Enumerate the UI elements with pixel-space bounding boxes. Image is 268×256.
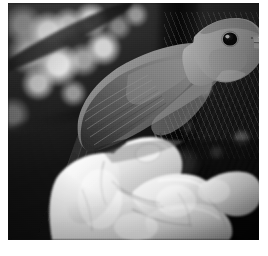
photograph	[8, 3, 259, 240]
figure-root	[0, 0, 268, 256]
figure-caption	[8, 241, 259, 255]
hand	[8, 3, 259, 240]
